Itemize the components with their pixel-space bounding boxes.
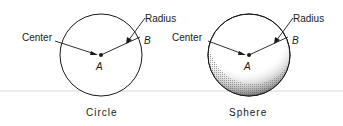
sphere-point-a-label: A xyxy=(244,62,251,72)
circle-point-a-label: A xyxy=(96,62,103,72)
sphere-figure xyxy=(205,14,295,100)
sphere-radius-label: Radius xyxy=(293,14,324,24)
sphere-caption: Sphere xyxy=(229,108,267,118)
circle-center-label: Center xyxy=(22,33,52,43)
circle-caption: Circle xyxy=(86,108,118,118)
sphere-center-label: Center xyxy=(172,33,202,43)
circle-radius-label: Radius xyxy=(145,14,176,24)
circle-figure xyxy=(55,14,145,96)
sphere-point-b-label: B xyxy=(292,36,299,46)
circle-point-b-label: B xyxy=(144,36,151,46)
